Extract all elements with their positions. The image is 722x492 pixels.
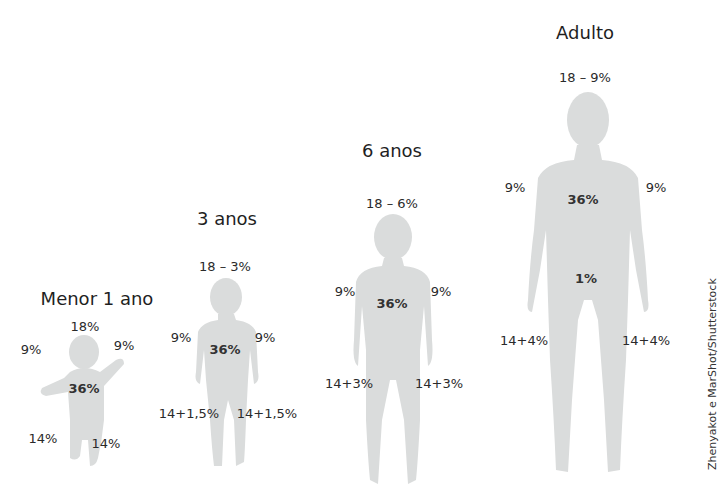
- adult-head-label: 18 – 9%: [559, 70, 611, 85]
- infant-right-arm-label: 9%: [114, 338, 135, 353]
- age6-left-arm-label: 9%: [335, 284, 356, 299]
- adult-right-arm-label: 9%: [646, 180, 667, 195]
- silhouettes: [0, 0, 722, 492]
- infant-right-leg-label: 14%: [92, 436, 121, 451]
- age3-left-leg-label: 14+1,5%: [159, 406, 219, 421]
- age6-trunk-label: 36%: [376, 296, 407, 311]
- adult-left-arm-label: 9%: [505, 180, 526, 195]
- adult-title: Adulto: [556, 22, 614, 43]
- infant-trunk-label: 36%: [68, 381, 99, 396]
- infant-head-label: 18%: [71, 319, 100, 334]
- age3-right-leg-label: 14+1,5%: [237, 406, 297, 421]
- age6-left-leg-label: 14+3%: [325, 376, 373, 391]
- adult-right-leg-label: 14+4%: [622, 333, 670, 348]
- age3-title: 3 anos: [197, 208, 257, 229]
- age6-title: 6 anos: [362, 140, 422, 161]
- infant-left-arm-label: 9%: [21, 342, 42, 357]
- age3-left-arm-label: 9%: [171, 330, 192, 345]
- adult-trunk-label: 36%: [567, 192, 598, 207]
- infant-left-leg-label: 14%: [29, 431, 58, 446]
- age6-right-arm-label: 9%: [431, 284, 452, 299]
- age3-trunk-label: 36%: [209, 342, 240, 357]
- age3-head-label: 18 – 3%: [199, 259, 251, 274]
- age6-silhouette: [354, 214, 433, 484]
- age3-right-arm-label: 9%: [255, 330, 276, 345]
- age6-head-label: 18 – 6%: [366, 196, 418, 211]
- infant-title: Menor 1 ano: [41, 288, 154, 309]
- age6-right-leg-label: 14+3%: [415, 376, 463, 391]
- age3-silhouette: [196, 278, 259, 466]
- image-credit: Zhenyakot e MarShot/Shutterstock: [706, 278, 719, 470]
- adult-left-leg-label: 14+4%: [500, 333, 548, 348]
- adult-genitals-label: 1%: [575, 271, 597, 286]
